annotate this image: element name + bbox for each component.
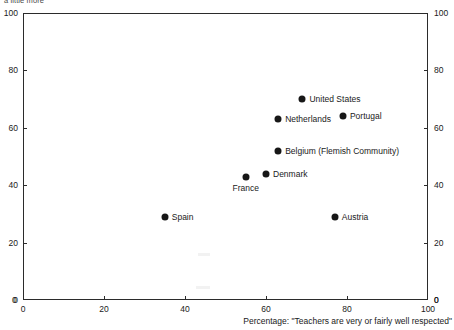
data-point-marker (242, 173, 249, 180)
y-tick-right (424, 128, 428, 129)
x-axis-tick-label: 40 (170, 304, 200, 314)
scatter-plot-area (23, 13, 428, 300)
y-axis-tick-label-right: 80 (434, 65, 454, 75)
x-tick (347, 296, 348, 300)
data-point-marker (161, 213, 168, 220)
y-axis-tick-label-left: 20 (0, 238, 18, 248)
y-tick-left (23, 185, 27, 186)
y-axis-tick-label-right: 100 (434, 8, 454, 18)
data-point-marker (331, 213, 338, 220)
y-axis-tick-label-right: 40 (434, 180, 454, 190)
y-axis-tick-label-left: 100 (0, 8, 18, 18)
y-axis-tick-label-left: 60 (0, 123, 18, 133)
axis-corner-zero-right: 0 (434, 295, 439, 305)
y-axis-tick-label-right: 60 (434, 123, 454, 133)
y-axis-tick-label-left: 80 (0, 65, 18, 75)
data-point-marker (299, 96, 306, 103)
scan-speckle (196, 286, 210, 289)
axis-corner-zero-left: 0 (12, 295, 17, 305)
data-point-label: Austria (342, 212, 368, 222)
data-point-marker (263, 170, 270, 177)
data-point-label: Spain (172, 212, 194, 222)
scan-speckle (198, 253, 210, 256)
x-axis-tick-label: 0 (8, 304, 38, 314)
data-point-marker (339, 113, 346, 120)
x-axis-tick-label: 60 (251, 304, 281, 314)
data-point-label: United States (309, 94, 360, 104)
x-axis-tick-label: 100 (413, 304, 443, 314)
y-tick-right (424, 70, 428, 71)
data-point-marker (275, 116, 282, 123)
y-axis-tick-label-right: 20 (434, 238, 454, 248)
x-tick (266, 296, 267, 300)
y-tick-left (23, 243, 27, 244)
y-tick-left (23, 128, 27, 129)
data-point-label: Netherlands (285, 114, 331, 124)
data-point-label: Denmark (273, 169, 307, 179)
top-caption: a little more (4, 0, 44, 5)
y-tick-left (23, 70, 27, 71)
data-point-marker (275, 147, 282, 154)
x-tick (185, 296, 186, 300)
x-axis-tick-label: 20 (89, 304, 119, 314)
data-point-label: France (233, 183, 259, 193)
y-tick-right (424, 185, 428, 186)
x-axis-title: Percentage: "Teachers are very or fairly… (243, 316, 452, 326)
x-axis-tick-label: 80 (332, 304, 362, 314)
data-point-label: Belgium (Flemish Community) (285, 146, 399, 156)
y-tick-right (424, 243, 428, 244)
y-axis-tick-label-left: 40 (0, 180, 18, 190)
data-point-label: Portugal (350, 111, 382, 121)
x-tick (104, 296, 105, 300)
